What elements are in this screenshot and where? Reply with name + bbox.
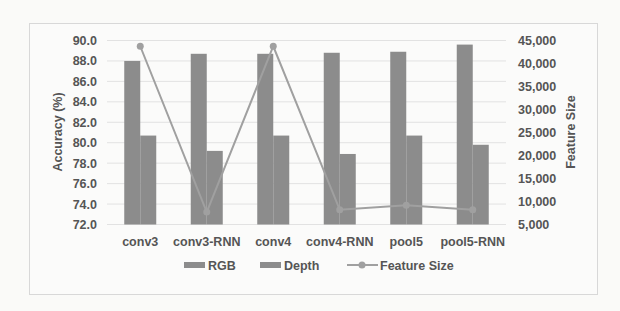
y-tick-label: 76.0	[73, 177, 97, 191]
legend-feature-size-label: Feature Size	[380, 259, 454, 273]
y-tick-label: 88.0	[73, 54, 97, 68]
feature-size-marker	[270, 43, 277, 50]
y-tick-label: 74.0	[73, 198, 97, 212]
bar-rgb	[390, 52, 406, 225]
y-tick-label: 86.0	[73, 75, 97, 89]
y-right-tick-label: 40,000	[518, 57, 556, 71]
y-right-tick-label: 30,000	[518, 103, 556, 117]
bar-series	[124, 45, 489, 225]
y-tick-label: 90.0	[73, 34, 97, 48]
y-right-tick-label: 35,000	[518, 80, 556, 94]
legend-rgb-label: RGB	[208, 259, 236, 273]
bar-rgb	[124, 61, 140, 225]
y-right-tick-label: 10,000	[518, 195, 556, 209]
y-right-tick-label: 20,000	[518, 149, 556, 163]
bar-depth	[473, 145, 489, 225]
legend-depth-label: Depth	[284, 259, 319, 273]
feature-size-marker	[469, 206, 476, 213]
y-right-tick-label: 5,000	[518, 218, 549, 232]
x-category-label: conv4-RNN	[306, 235, 373, 249]
bar-depth	[140, 136, 156, 225]
y-axis-right-ticks: 5,00010,00015,00020,00025,00030,00035,00…	[518, 34, 556, 232]
legend-marker-icon	[359, 262, 366, 269]
y-axis-left-label: Accuracy (%)	[51, 92, 65, 171]
bar-rgb	[191, 54, 207, 225]
legend: RGB Depth Feature Size	[184, 259, 454, 273]
x-axis-categories: conv3conv3-RNNconv4conv4-RNNpool5pool5-R…	[122, 235, 505, 249]
x-category-label: pool5-RNN	[440, 235, 505, 249]
bar-rgb	[457, 45, 473, 225]
y-tick-label: 78.0	[73, 157, 97, 171]
legend-rgb-swatch	[184, 262, 205, 268]
y-tick-label: 84.0	[73, 95, 97, 109]
y-axis-right-label: Feature Size	[564, 95, 578, 169]
y-tick-label: 82.0	[73, 116, 97, 130]
x-category-label: conv4	[255, 235, 291, 249]
y-tick-label: 72.0	[73, 218, 97, 232]
feature-size-marker	[137, 43, 144, 50]
gridlines	[107, 41, 506, 225]
bar-depth	[406, 136, 422, 225]
legend-depth-swatch	[260, 262, 281, 268]
y-right-tick-label: 15,000	[518, 172, 556, 186]
bar-depth	[340, 154, 356, 225]
y-right-tick-label: 25,000	[518, 126, 556, 140]
y-right-tick-label: 45,000	[518, 34, 556, 48]
x-category-label: conv3	[122, 235, 158, 249]
y-axis-left-ticks: 72.074.076.078.080.082.084.086.088.090.0	[73, 34, 97, 232]
feature-size-line	[137, 43, 477, 216]
feature-size-marker	[336, 206, 343, 213]
y-tick-label: 80.0	[73, 136, 97, 150]
x-category-label: pool5	[390, 235, 423, 249]
feature-size-polyline	[140, 46, 473, 212]
feature-size-marker	[403, 202, 410, 209]
bar-depth	[273, 136, 289, 225]
feature-size-marker	[203, 209, 210, 216]
x-category-label: conv3-RNN	[173, 235, 240, 249]
bar-rgb	[324, 53, 340, 225]
combo-chart: 72.074.076.078.080.082.084.086.088.090.0…	[0, 0, 620, 311]
